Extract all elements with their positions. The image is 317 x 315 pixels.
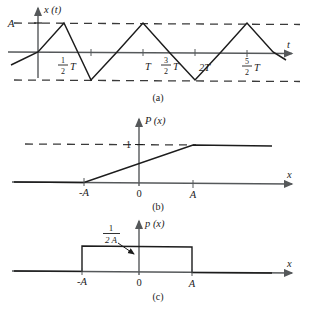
panel-b: P (x) x 1 -A 0 A (b) bbox=[12, 115, 292, 213]
ticklabel-half-t-numerator: 1 bbox=[61, 56, 65, 65]
ticklabel-five-half-t-numerator: 5 bbox=[245, 57, 249, 66]
ticklabel-two-t: 2T bbox=[199, 62, 211, 73]
label-axis-t: t bbox=[287, 39, 291, 50]
ticklabel-zero-panel-b: 0 bbox=[136, 188, 141, 199]
ticklabel-zero-panel-c: 0 bbox=[136, 277, 141, 288]
ticklabel-unity-panel-b: 1 bbox=[126, 139, 131, 150]
dashed-line-minus-a bbox=[14, 80, 300, 82]
ticklabel-minus-a-panel-c: -A bbox=[77, 276, 87, 287]
label-pdf-height-denominator: 2 A bbox=[105, 235, 118, 245]
label-axis-p-panel-c: p (x) bbox=[144, 218, 165, 230]
ticklabel-t: T bbox=[145, 61, 152, 72]
label-pdf-height: 1 2 A bbox=[103, 223, 120, 245]
ticklabel-three-half-t-denominator: 2 bbox=[164, 67, 168, 76]
curve-pdf-uniform bbox=[14, 246, 272, 273]
ticklabel-minus-a-panel-b: -A bbox=[79, 187, 89, 198]
ticklabel-plus-a-panel-c: A bbox=[188, 278, 196, 289]
caption-panel-a: (a) bbox=[152, 92, 163, 104]
figure-svg: A x (t) t 1 2 T T 3 2 T 2T bbox=[0, 0, 317, 315]
ticklabel-half-t: 1 2 T bbox=[58, 56, 77, 76]
panel-c: 1 2 A p (x) x -A 0 A (c) bbox=[12, 218, 292, 303]
caption-panel-b: (b) bbox=[152, 201, 164, 213]
label-amplitude-a: A bbox=[7, 17, 15, 29]
label-axis-x-panel-b: x bbox=[286, 169, 292, 180]
label-pdf-height-numerator: 1 bbox=[109, 223, 114, 233]
axis-t bbox=[8, 52, 292, 54]
figure-container: A x (t) t 1 2 T T 3 2 T 2T bbox=[0, 0, 317, 315]
ticklabel-five-half-t-denominator: 2 bbox=[245, 68, 249, 77]
ticklabel-half-t-symbol: T bbox=[70, 61, 77, 72]
label-axis-xt: x (t) bbox=[43, 4, 62, 16]
dashed-line-unity bbox=[25, 144, 196, 145]
ticklabel-five-half-t: 5 2 T bbox=[242, 57, 261, 77]
label-axis-x-panel-c: x bbox=[286, 258, 292, 269]
ticklabel-half-t-denominator: 2 bbox=[61, 67, 65, 76]
ticklabel-five-half-t-symbol: T bbox=[254, 62, 261, 73]
caption-panel-c: (c) bbox=[152, 291, 163, 303]
ticklabel-three-half-t-numerator: 3 bbox=[164, 56, 168, 65]
ticklabel-plus-a-panel-b: A bbox=[189, 189, 197, 200]
curve-cdf bbox=[14, 145, 272, 183]
label-axis-p: P (x) bbox=[144, 115, 166, 127]
ticklabel-three-half-t: 3 2 T bbox=[161, 56, 180, 76]
leader-arrow-height bbox=[118, 243, 134, 254]
dashed-line-plus-a bbox=[14, 23, 300, 25]
panel-a: A x (t) t 1 2 T T 3 2 T 2T bbox=[7, 4, 300, 104]
